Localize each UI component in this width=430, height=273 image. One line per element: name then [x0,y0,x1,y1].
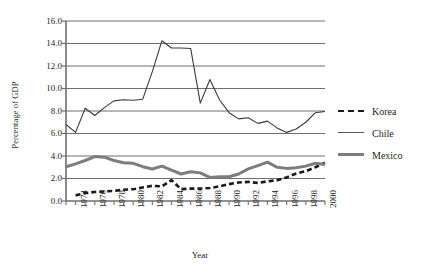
legend-label-mexico: Mexico [366,150,403,161]
x-tick-label: 1974 [80,190,89,208]
x-tick-label: 1988 [214,190,223,208]
x-tick-label: 1990 [233,190,242,208]
x-tick-label: 1996 [291,190,300,208]
x-tick-label: 1986 [195,190,204,208]
legend-label-chile: Chile [366,128,394,139]
x-tick-label: 1980 [137,190,146,208]
legend-line-mexico-icon [336,149,366,161]
legend-line-korea-icon [336,105,366,117]
legend-item-mexico: Mexico [336,144,428,166]
chart-legend: Korea Chile Mexico [336,100,428,166]
x-tick-label: 2000 [329,190,338,208]
legend-line-chile-icon [336,127,366,139]
legend-item-chile: Chile [336,122,428,144]
x-tick-label: 1978 [118,190,127,208]
chart-figure: Percentage of GDP 0.02.04.06.08.010.012.… [0,0,430,273]
x-tick-label: 1992 [252,190,261,208]
x-tick-label: 1998 [310,190,319,208]
x-axis-title: Year [160,250,240,260]
x-tick-label: 1982 [156,190,165,208]
legend-item-korea: Korea [336,100,428,122]
x-tick-label: 1976 [99,190,108,208]
x-tick-label: 1984 [176,190,185,208]
legend-label-korea: Korea [366,106,396,117]
x-tick-label: 1994 [271,190,280,208]
